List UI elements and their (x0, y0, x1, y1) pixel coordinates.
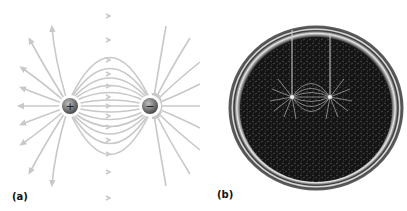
panel-label-a: (a) (12, 191, 28, 202)
svg-text:−: − (145, 100, 154, 113)
field-lines-photo (210, 0, 407, 211)
electrode-right (328, 95, 332, 99)
petri-dish (228, 25, 404, 191)
panel-label-b: (b) (217, 189, 233, 200)
electrode-left (290, 95, 294, 99)
field-lines-svg: + − (0, 0, 210, 211)
negative-charge: − (142, 98, 158, 114)
svg-text:+: + (65, 100, 74, 113)
dish-photo-svg (210, 0, 407, 211)
positive-charge: + (62, 98, 78, 114)
dipole-field-diagram: + − (0, 0, 210, 211)
field-lines (20, 14, 200, 200)
